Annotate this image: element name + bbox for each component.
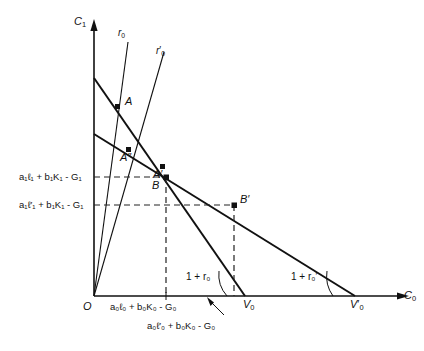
ray-r0prime-label: r′0 — [156, 46, 165, 58]
budget-line-1 — [94, 78, 245, 296]
marker-A — [115, 104, 120, 109]
slope-1plusr0prime-label: 1 + r₀′ — [291, 272, 317, 282]
y-axis-label: C1 — [74, 16, 86, 29]
y-axis-arrowhead — [90, 19, 97, 31]
origin-label: O — [83, 301, 92, 312]
x-tick-upper-label: a₀ℓ₀ + b₀K₀ - G₀ — [110, 302, 176, 312]
figure-canvas: C1 C0 O r0 r′0 A A″ A′ B B′ a₁ℓ₁ + b₁K₁ … — [0, 0, 424, 351]
slope-1plusr0-label: 1 + r₀ — [186, 272, 210, 282]
point-A2prime-label: A″ — [120, 152, 131, 163]
ray-r0-label: r0 — [118, 28, 125, 40]
point-markers-group — [115, 104, 237, 208]
point-Bprime-label: B′ — [240, 194, 249, 205]
y-tick-lower-label: a₁ℓ′₁ + b₁K₁ - G₁ — [19, 200, 83, 210]
callout-arrow-group — [207, 297, 224, 315]
ray-r0-line — [94, 42, 128, 296]
point-B-label: B — [152, 180, 159, 191]
callout-arrow-line — [211, 302, 224, 315]
y-tick-upper-label: a₁ℓ₁ + b₁K₁ - G₁ — [19, 172, 82, 182]
marker-B — [164, 175, 170, 181]
axes-group — [90, 19, 409, 299]
x-tick-lower-label: a₀ℓ′₀ + b₀K₀ - G₀ — [147, 321, 215, 331]
intercept-V0prime-label: V′0 — [350, 299, 364, 312]
x-axis-label: C0 — [404, 290, 416, 303]
dashed-guides-group — [94, 177, 234, 296]
intercept-V0-label: V0 — [243, 299, 255, 312]
marker-Bprime — [232, 203, 238, 209]
angle-arc-r0prime — [327, 271, 333, 296]
point-A-label: A — [125, 96, 132, 107]
angle-arc-r0 — [219, 271, 227, 296]
